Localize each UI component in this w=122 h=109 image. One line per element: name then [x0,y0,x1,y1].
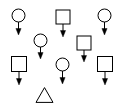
diagram-node-circle[interactable] [98,9,111,35]
diagram-canvas [0,0,122,109]
diagram-node-square[interactable] [12,57,27,86]
square-shape[interactable] [12,57,27,72]
circle-shape[interactable] [56,58,69,71]
arrow-head [16,29,21,36]
down-arrow-icon [81,50,86,62]
square-shape[interactable] [56,10,70,24]
diagram-node-circle[interactable] [12,9,25,35]
down-arrow-icon [38,47,43,59]
diagram-node-square[interactable] [77,36,91,62]
diagram-node-triangle[interactable] [36,88,53,103]
circle-shape[interactable] [98,9,111,22]
down-arrow-icon [60,24,65,37]
down-arrow-icon [16,72,21,85]
arrow-head [102,79,107,86]
square-shape[interactable] [77,36,91,50]
arrow-head [38,53,43,60]
arrow-head [81,56,86,63]
down-arrow-icon [60,71,65,84]
diagram-node-circle[interactable] [34,34,47,59]
square-shape[interactable] [98,57,113,72]
down-arrow-icon [102,72,107,85]
down-arrow-icon [102,22,107,35]
arrow-head [16,79,21,86]
shapes-layer [12,9,113,102]
arrow-head [102,29,107,36]
arrow-head [60,31,65,38]
circle-shape[interactable] [12,9,25,22]
arrow-head [60,78,65,85]
diagram-node-square[interactable] [98,57,113,86]
diagram-node-square[interactable] [56,10,70,37]
circle-shape[interactable] [34,34,47,47]
triangle-shape[interactable] [36,88,53,103]
diagram-node-circle[interactable] [56,58,69,84]
shapes-diagram [0,0,122,109]
down-arrow-icon [16,22,21,35]
